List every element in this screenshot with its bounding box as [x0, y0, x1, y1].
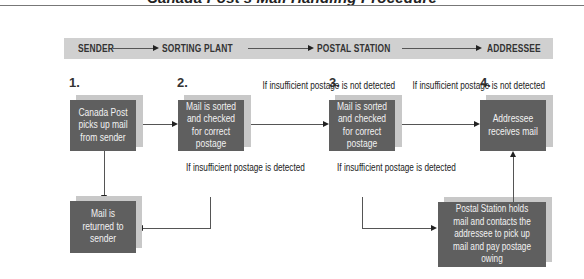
- note-detected-2: If insufficient postage is detected: [324, 162, 398, 174]
- flow-arrow-2-3: [251, 124, 324, 125]
- stage-sender: SENDER: [78, 42, 114, 54]
- step-3-box: Mail is sorted and checked for correct p…: [329, 100, 395, 151]
- step-4-text: Addressee receives mail: [485, 113, 541, 138]
- stage-connector: [113, 48, 155, 49]
- arrow-right-icon: [172, 121, 178, 127]
- flow-arrow-1-returned: [104, 151, 105, 197]
- step-4-box: Addressee receives mail: [480, 100, 546, 151]
- step-number-1: 1.: [69, 75, 80, 90]
- arrow-right-icon: [431, 225, 437, 231]
- flow-arrow-1-2: [143, 124, 173, 125]
- flow-line-detected-1: [210, 197, 211, 229]
- arrow-right-icon: [474, 121, 480, 127]
- note-detected-1: If insufficient postage is detected: [173, 162, 247, 174]
- note-not-detected-1: If insufficient postage is not detected: [248, 80, 324, 92]
- returned-box: Mail is returned to sender: [70, 201, 136, 253]
- step-1-text: Canada Post picks up mail from sender: [75, 107, 131, 145]
- arrow-right-icon: [323, 121, 329, 127]
- step-number-2: 2.: [177, 75, 188, 90]
- flow-line-detected-2-horizontal: [362, 228, 432, 229]
- stage-sorting-plant: SORTING PLANT: [162, 42, 233, 54]
- stage-connector: [402, 48, 478, 49]
- step-1-box: Canada Post picks up mail from sender: [70, 100, 136, 151]
- flow-arrow-held-4: [513, 157, 514, 202]
- title-rule: [0, 5, 584, 6]
- step-2-box: Mail is sorted and checked for correct p…: [178, 100, 244, 151]
- flow-line-detected-1-horizontal: [143, 228, 211, 229]
- arrow-right-icon: [153, 45, 159, 51]
- arrow-up-icon: [510, 151, 516, 157]
- note-not-detected-2: If insufficient postage is not detected: [398, 80, 474, 92]
- step-3-text: Mail is sorted and checked for correct p…: [334, 101, 390, 151]
- step-2-text: Mail is sorted and checked for correct p…: [183, 101, 239, 151]
- flow-arrow-3-4: [402, 124, 475, 125]
- stage-connector: [248, 48, 310, 49]
- stage-addressee: ADDRESSEE: [487, 42, 541, 54]
- held-text: Postal Station holds mail and contacts t…: [448, 203, 537, 266]
- arrow-right-icon: [308, 45, 314, 51]
- flow-line-detected-2: [362, 197, 363, 229]
- arrow-right-icon: [476, 45, 482, 51]
- returned-text: Mail is returned to sender: [75, 208, 131, 246]
- held-box: Postal Station holds mail and contacts t…: [438, 202, 546, 267]
- stage-postal-station: POSTAL STATION: [317, 42, 390, 54]
